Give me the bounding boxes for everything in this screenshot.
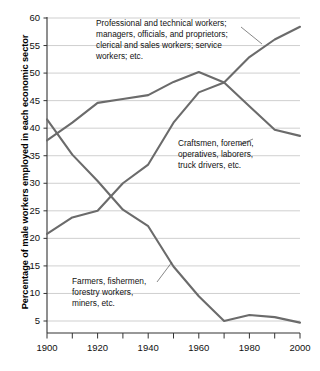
x-tick-label: 2000 (280, 343, 320, 353)
x-tick-label: 1900 (27, 343, 67, 353)
y-tick-label: 40 (18, 123, 40, 133)
y-tick-label: 60 (18, 13, 40, 23)
annotation-leader-line (157, 262, 172, 282)
y-tick-label: 5 (18, 316, 40, 326)
y-tick-label: 50 (18, 68, 40, 78)
y-tick-label: 35 (18, 151, 40, 161)
x-tick-label: 1920 (78, 343, 118, 353)
y-tick-label: 20 (18, 233, 40, 243)
y-tick-label: 30 (18, 178, 40, 188)
y-tick-label: 55 (18, 41, 40, 51)
y-tick-label: 45 (18, 96, 40, 106)
series-line-blue-collar (47, 72, 300, 140)
x-tick-label: 1980 (229, 343, 269, 353)
series-label-farmers: Farmers, fishermen, forestry workers, mi… (72, 276, 146, 309)
x-tick-label: 1960 (179, 343, 219, 353)
y-tick-label: 25 (18, 206, 40, 216)
line-chart: Percentage of male workers employed in e… (0, 0, 320, 371)
annotation-leader-line (241, 27, 262, 44)
series-label-craftsmen: Craftsmen, foremen, operatives, laborers… (178, 138, 254, 171)
y-tick-label: 10 (18, 288, 40, 298)
y-tick-label: 15 (18, 261, 40, 271)
x-tick-label: 1940 (128, 343, 168, 353)
series-label-professional: Professional and technical workers; mana… (96, 18, 228, 62)
